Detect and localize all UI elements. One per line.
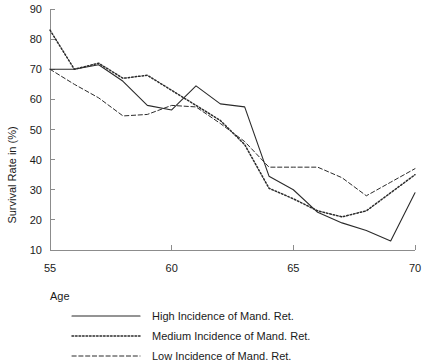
- y-tick-label: 70: [30, 63, 42, 75]
- legend-label: Medium Incidence of Mand. Ret.: [152, 330, 310, 342]
- x-axis: 55606570 Age: [44, 245, 421, 302]
- x-tick-label: 70: [409, 262, 421, 274]
- x-tick-label: 55: [44, 262, 56, 274]
- chart-canvas: 102030405060708090 Survival Rate in (%) …: [0, 0, 425, 362]
- y-tick-label: 30: [30, 184, 42, 196]
- legend-label: Low Incidence of Mand. Ret.: [152, 350, 291, 362]
- x-tick-label: 65: [287, 262, 299, 274]
- y-tick-label: 40: [30, 154, 42, 166]
- y-axis: 102030405060708090 Survival Rate in (%): [6, 3, 55, 256]
- data-series-group: [50, 30, 415, 241]
- y-tick-label: 90: [30, 3, 42, 15]
- y-tick-label: 50: [30, 124, 42, 136]
- y-axis-tick-labels: 102030405060708090: [30, 3, 42, 256]
- x-tick-label: 60: [166, 262, 178, 274]
- y-axis-title: Survival Rate in (%): [6, 126, 18, 223]
- y-tick-label: 20: [30, 214, 42, 226]
- series-dashed: [50, 69, 415, 196]
- survival-rate-line-chart: 102030405060708090 Survival Rate in (%) …: [0, 0, 425, 362]
- chart-legend: High Incidence of Mand. Ret.Medium Incid…: [72, 310, 310, 362]
- x-axis-ticks: [50, 245, 415, 250]
- y-tick-label: 60: [30, 93, 42, 105]
- y-tick-label: 10: [30, 244, 42, 256]
- legend-label: High Incidence of Mand. Ret.: [152, 310, 294, 322]
- y-tick-label: 80: [30, 33, 42, 45]
- series-solid: [50, 65, 415, 241]
- x-axis-title: Age: [50, 290, 70, 302]
- x-axis-tick-labels: 55606570: [44, 262, 421, 274]
- series-dotted: [50, 30, 415, 217]
- y-axis-ticks: [50, 9, 55, 250]
